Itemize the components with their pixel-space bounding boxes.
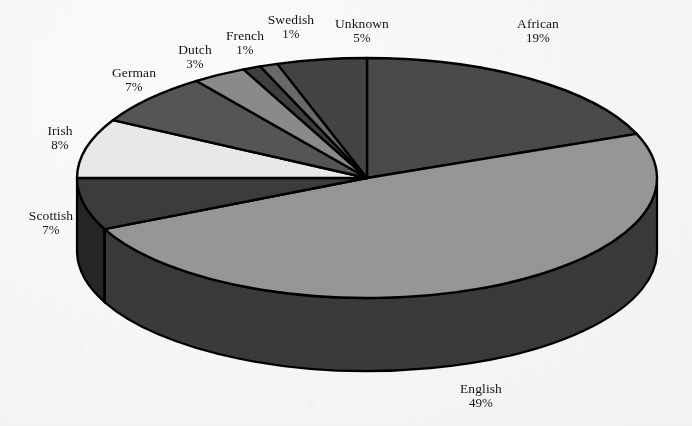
slice-label-african: African 19%: [492, 17, 584, 44]
slice-label-irish-name: Irish: [22, 124, 98, 138]
slice-label-scottish: Scottish 7%: [5, 209, 97, 236]
slice-label-african-name: African: [492, 17, 584, 31]
slice-label-irish-value: 8%: [22, 138, 98, 151]
pie-chart-graphic: [0, 0, 692, 426]
slice-label-unknown: Unknown 5%: [316, 17, 408, 44]
slice-label-unknown-name: Unknown: [316, 17, 408, 31]
pie-top-slices: [77, 58, 657, 298]
slice-label-scottish-value: 7%: [5, 223, 97, 236]
slice-label-french-value: 1%: [207, 43, 283, 56]
slice-label-dutch-value: 3%: [158, 57, 232, 70]
pie-chart-figure: African 19% English 49% Scottish 7% Iris…: [0, 0, 692, 426]
slice-label-english: English 49%: [435, 382, 527, 409]
slice-label-irish: Irish 8%: [22, 124, 98, 151]
slice-label-english-name: English: [435, 382, 527, 396]
slice-label-german-value: 7%: [90, 80, 178, 93]
slice-label-german: German 7%: [90, 66, 178, 93]
slice-label-scottish-name: Scottish: [5, 209, 97, 223]
slice-label-unknown-value: 5%: [316, 31, 408, 44]
slice-label-english-value: 49%: [435, 396, 527, 409]
slice-label-african-value: 19%: [492, 31, 584, 44]
